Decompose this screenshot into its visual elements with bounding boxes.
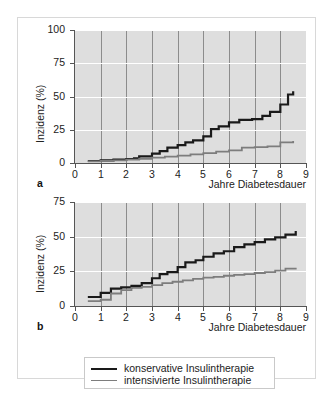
y-tick-label: 100 [35, 24, 65, 34]
y-tick-label: 75 [35, 196, 65, 206]
legend-label-intensiviert: intensivierte Insulintherapie [124, 375, 251, 386]
x-tick-label: 1 [91, 312, 111, 322]
x-tick-label: 2 [116, 312, 136, 322]
series-line-0 [88, 231, 296, 297]
y-axis-line-b [74, 202, 75, 307]
x-tick-label: 3 [142, 312, 162, 322]
y-tick-label: 75 [35, 57, 65, 67]
y-tick [70, 130, 74, 131]
legend-item-1: intensivierte Insulintherapie [91, 374, 251, 387]
chart-panel-a: 0255075100 0123456789 Inzidenz (%) Jahre… [18, 18, 317, 193]
x-axis-line-a [74, 163, 307, 164]
x-tick-label: 1 [91, 169, 111, 179]
x-axis-line-b [74, 306, 307, 307]
chart-panel-b: 0255075 0123456789 Inzidenz (%) Jahre Di… [18, 193, 317, 341]
y-tick [70, 30, 74, 31]
series-layer [75, 202, 306, 306]
y-tick-label: 0 [35, 300, 65, 310]
x-tick-label: 0 [65, 169, 85, 179]
y-axis-title-a: Inzidenz (%) [34, 85, 46, 143]
y-axis-line-a [74, 30, 75, 164]
chart-legend: konservative Insulintherapie intensivier… [84, 357, 275, 389]
series-line-1 [88, 141, 293, 161]
y-tick [70, 97, 74, 98]
series-layer [75, 30, 306, 163]
figure-root: 0255075100 0123456789 Inzidenz (%) Jahre… [0, 0, 334, 397]
series-line-0 [88, 91, 293, 161]
y-tick [70, 202, 74, 203]
x-axis-title-a: Jahre Diabetesdauer [178, 178, 306, 190]
panel-letter-b: b [37, 320, 43, 332]
x-tick-label: 3 [142, 169, 162, 179]
x-axis-title-b: Jahre Diabetesdauer [178, 321, 306, 333]
y-tick [70, 271, 74, 272]
y-tick-label: 0 [35, 157, 65, 167]
y-tick [70, 163, 74, 164]
x-tick-label: 0 [65, 312, 85, 322]
x-tick-label: 2 [116, 169, 136, 179]
y-tick [70, 306, 74, 307]
y-axis-title-b: Inzidenz (%) [34, 235, 46, 293]
figure-frame: 0255075100 0123456789 Inzidenz (%) Jahre… [17, 17, 316, 379]
y-tick [70, 63, 74, 64]
legend-swatch-intensiviert [91, 380, 117, 381]
plot-area-b [75, 202, 306, 306]
plot-area-a [75, 30, 306, 163]
legend-label-konservativ: konservative Insulintherapie [124, 363, 254, 374]
y-tick [70, 237, 74, 238]
panel-letter-a: a [37, 177, 43, 189]
series-line-1 [88, 268, 296, 301]
legend-swatch-konservativ [91, 368, 117, 370]
